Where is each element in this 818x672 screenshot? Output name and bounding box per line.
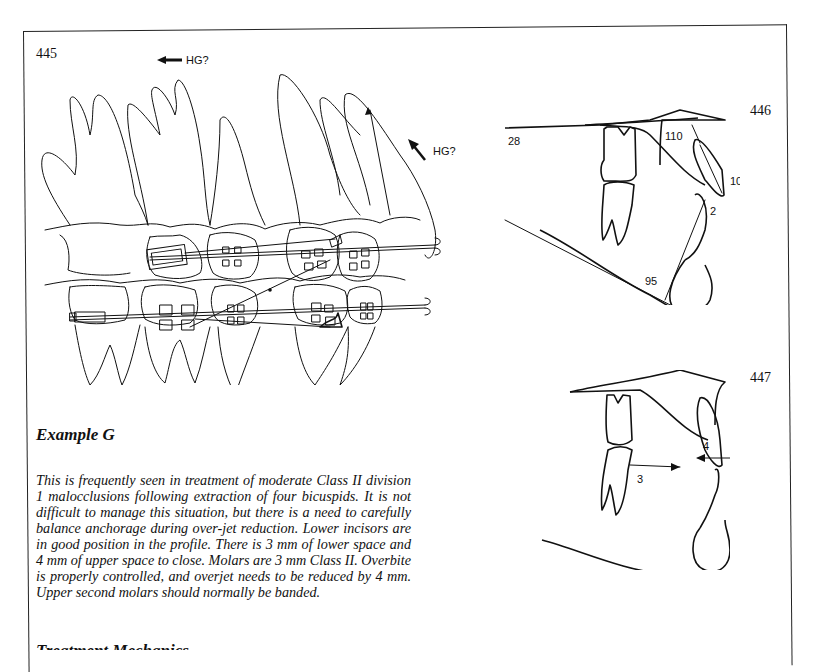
- svg-text:HG?: HG?: [433, 145, 456, 157]
- next-section-heading-partial: Treatment Mechanics: [36, 641, 189, 650]
- hg-right-annotation: HG?: [408, 139, 456, 160]
- svg-text:4: 4: [703, 440, 709, 452]
- svg-text:110: 110: [665, 130, 683, 142]
- figure-446-cephalometric-tracing: 28 110 10 2 95: [500, 105, 740, 305]
- figure-number-446: 446: [750, 103, 771, 119]
- svg-text:HG?: HG?: [186, 55, 209, 66]
- figure-445-dentition-drawing: HG? HG?: [30, 55, 470, 385]
- svg-text:95: 95: [645, 275, 657, 287]
- figure-447-cephalometric-tracing: 3 4: [530, 370, 730, 570]
- section-paragraph: This is frequently seen in treatment of …: [36, 472, 411, 600]
- hg-left-annotation: HG?: [157, 55, 209, 66]
- svg-text:28: 28: [508, 135, 520, 147]
- svg-text:3: 3: [637, 473, 643, 485]
- section-heading: Example G: [36, 425, 115, 445]
- figure-number-447: 447: [750, 370, 771, 386]
- svg-text:2: 2: [710, 205, 716, 217]
- svg-text:10: 10: [730, 175, 740, 187]
